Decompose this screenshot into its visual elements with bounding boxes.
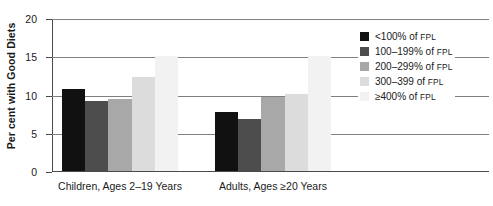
legend-label-abbrev-1: FPL — [420, 32, 436, 42]
y-tick-label-20: 20 — [25, 14, 37, 25]
y-axis-title: Per cent with Good Diets — [2, 0, 20, 172]
bar — [308, 56, 331, 172]
legend-swatch-5 — [360, 92, 369, 101]
y-tick-10: 10 — [46, 96, 52, 97]
y-tick-5: 5 — [46, 134, 52, 135]
category-label-1: Children, Ages 2–19 Years — [58, 180, 182, 192]
bar-group-1 — [62, 19, 178, 172]
legend-label-abbrev-5: FPL — [420, 92, 436, 102]
y-tick-15: 15 — [46, 57, 52, 58]
legend-item-3: 200–299% of FPL — [360, 59, 453, 74]
legend-label-5: ≥400% of FPL — [375, 92, 436, 102]
x-axis-line — [52, 171, 489, 172]
legend-label-1: <100% of FPL — [375, 32, 436, 42]
legend-label-2: 100–199% of FPL — [375, 47, 453, 57]
legend-item-4: 300–399 of FPL — [360, 74, 453, 89]
legend-item-1: <100% of FPL — [360, 29, 453, 44]
bar — [108, 99, 131, 172]
y-tick-label-15: 15 — [25, 52, 37, 63]
bar-chart-figure: Per cent with Good Diets 05101520 Childr… — [0, 0, 493, 206]
category-label-2: Adults, Ages ≥20 Years — [219, 180, 327, 192]
y-axis-title-text: Per cent with Good Diets — [5, 23, 17, 150]
legend-swatch-3 — [360, 62, 369, 71]
bar-group-2 — [215, 19, 331, 172]
legend-label-abbrev-3: FPL — [437, 62, 453, 72]
legend: <100% of FPL100–199% of FPL200–299% of F… — [358, 26, 455, 107]
bar — [215, 112, 238, 172]
bar — [85, 101, 108, 172]
y-tick-label-5: 5 — [31, 129, 37, 140]
bar — [285, 94, 308, 172]
y-tick-20: 20 — [46, 19, 52, 20]
y-tick-label-0: 0 — [31, 167, 37, 178]
bar — [132, 77, 155, 172]
legend-label-abbrev-2: FPL — [437, 47, 453, 57]
bar — [155, 56, 178, 172]
bar — [261, 97, 284, 172]
legend-item-2: 100–199% of FPL — [360, 44, 453, 59]
legend-label-4: 300–399 of FPL — [375, 77, 444, 87]
bar — [62, 89, 85, 172]
legend-label-3: 200–299% of FPL — [375, 62, 453, 72]
y-tick-label-10: 10 — [25, 91, 37, 102]
legend-label-abbrev-4: FPL — [428, 77, 444, 87]
legend-swatch-1 — [360, 32, 369, 41]
y-tick-0: 0 — [46, 172, 52, 173]
legend-swatch-2 — [360, 47, 369, 56]
bar — [238, 119, 261, 172]
legend-item-5: ≥400% of FPL — [360, 89, 453, 104]
legend-swatch-4 — [360, 77, 369, 86]
